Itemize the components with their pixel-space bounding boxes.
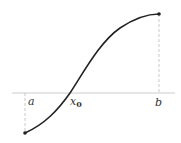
- label-b: b: [155, 96, 162, 109]
- endpoint-a-dot: [23, 131, 27, 135]
- label-x0-sub: 0: [76, 99, 82, 109]
- ivt-diagram: a x0 b: [0, 0, 181, 143]
- label-x0: x0: [70, 95, 82, 109]
- endpoint-b-dot: [157, 12, 161, 16]
- function-curve: [25, 14, 159, 133]
- label-a: a: [28, 95, 35, 108]
